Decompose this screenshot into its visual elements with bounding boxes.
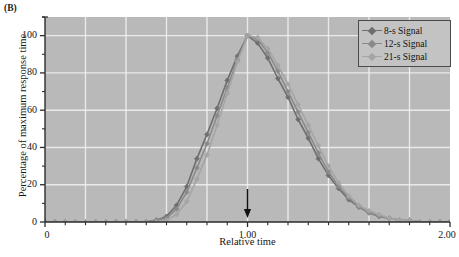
chart-legend: 8-s Signal12-s Signal21-s Signal (358, 20, 451, 67)
legend-marker-icon (362, 25, 382, 36)
y-tick-label: 40 (7, 141, 37, 152)
legend-item: 8-s Signal (362, 24, 446, 37)
y-tick-label: 0 (7, 216, 37, 227)
figure-panel-b: (B) Percentage of maximum response time … (0, 0, 459, 257)
x-tick-label: 1.00 (225, 229, 271, 240)
x-tick-label: 2.00 (424, 229, 459, 240)
legend-marker-icon (362, 51, 382, 62)
y-tick-label: 60 (7, 104, 37, 115)
legend-label: 12-s Signal (382, 39, 427, 49)
x-tick-label: 0 (24, 229, 70, 240)
legend-item: 21-s Signal (362, 50, 446, 63)
legend-label: 8-s Signal (382, 26, 422, 36)
legend-marker-icon (362, 38, 382, 49)
y-tick-label: 20 (7, 178, 37, 189)
y-tick-label: 80 (7, 66, 37, 77)
y-tick-label: 100 (7, 29, 37, 40)
legend-item: 12-s Signal (362, 37, 446, 50)
legend-label: 21-s Signal (382, 52, 427, 62)
